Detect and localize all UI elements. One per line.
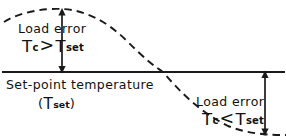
set-point-temperature-label: Set-point temperature — [6, 77, 154, 92]
tset-subscript: set — [66, 42, 84, 53]
tset-symbol: T — [236, 110, 247, 129]
load-error-diagram: Load error Tc>Tset Set-point temperature… — [0, 0, 286, 139]
tset-symbol: T — [56, 37, 67, 56]
tset-parenthetical-label: (Tset) — [38, 94, 75, 112]
tset-subscript: set — [53, 99, 69, 110]
tset-subscript: set — [246, 115, 264, 126]
load-error-low-label: Load error — [196, 94, 264, 109]
less-than-icon: < — [218, 108, 235, 128]
tc-greater-than-tset-label: Tc>Tset — [22, 35, 84, 55]
tc-symbol: T — [22, 37, 33, 56]
tc-symbol: T — [202, 110, 213, 129]
load-error-high-label: Load error — [18, 21, 86, 36]
tc-less-than-tset-label: Tc<Tset — [202, 108, 264, 128]
paren-close: ) — [70, 96, 75, 111]
greater-than-icon: > — [38, 35, 55, 55]
tset-symbol: T — [43, 95, 53, 113]
